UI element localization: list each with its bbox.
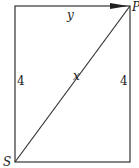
diagonal-line <box>15 6 130 162</box>
label-diagonal: x <box>73 69 80 83</box>
label-top-edge: y <box>66 8 74 22</box>
label-left-edge: 4 <box>17 74 25 88</box>
label-vertex-p: P <box>131 0 139 14</box>
label-right-edge: 4 <box>120 74 128 88</box>
arrowhead-icon <box>110 3 128 9</box>
diagram-canvas: y x 4 4 S P <box>0 0 139 168</box>
label-vertex-s: S <box>3 155 11 168</box>
